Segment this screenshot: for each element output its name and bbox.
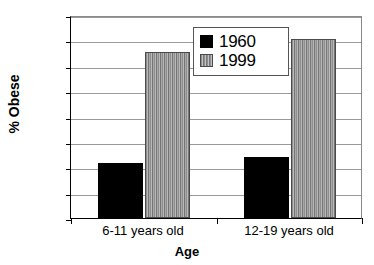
category-label: 6-11 years old [70,223,216,238]
legend-item: 1960 [200,32,282,51]
bar-1999-6-11-years-old [145,52,190,218]
y-axis-tick [66,93,71,94]
gridline [71,17,361,18]
category-label: 12-19 years old [216,223,362,238]
y-axis-tick [66,144,71,145]
legend-item: 1999 [200,51,282,70]
y-axis-tick [66,195,71,196]
y-axis-tick [66,119,71,120]
legend-item-label: 1999 [219,52,256,69]
gray-hatched-square-icon [200,54,213,67]
y-axis-tick [66,169,71,170]
bar-1960-12-19-years-old [244,157,289,218]
y-axis-tick [66,42,71,43]
y-axis-title: % Obese [6,54,22,154]
legend-item-label: 1960 [219,33,256,50]
bar-1960-6-11-years-old [98,163,143,218]
bar-chart: % Obese 0%2%4%6%8%10%12%14%16% 1960 1999… [0,0,374,265]
x-axis-title: Age [0,244,374,259]
bar-1999-12-19-years-old [291,39,336,218]
y-axis-tick [66,68,71,69]
black-square-icon [200,35,213,48]
legend: 1960 1999 [193,27,289,76]
y-axis-tick [66,17,71,18]
